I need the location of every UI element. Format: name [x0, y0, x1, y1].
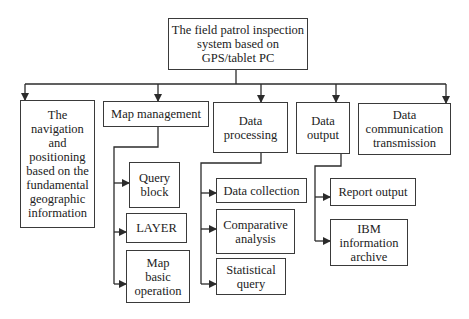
- module-map-management: Map management: [103, 101, 209, 127]
- node-label: Statistical query: [226, 263, 275, 291]
- module-label: Data output: [307, 114, 339, 142]
- node-label: Map basic operation: [134, 256, 181, 298]
- node-label: Comparative analysis: [223, 218, 288, 246]
- module-label: Map management: [111, 107, 201, 121]
- module-label: The navigation and positioning based on …: [26, 108, 88, 220]
- node-label: Report output: [338, 185, 407, 199]
- node-label: IBM information archive: [339, 222, 398, 264]
- node-query-block: Query block: [129, 162, 180, 208]
- module-data-processing: Data processing: [213, 102, 288, 153]
- module-label: Data processing: [224, 114, 277, 142]
- root-label: The field patrol inspection system based…: [172, 23, 304, 65]
- node-map-basic-operation: Map basic operation: [126, 250, 190, 303]
- node-label: Query block: [139, 171, 170, 199]
- node-label: LAYER: [136, 221, 177, 235]
- node-comparative-analysis: Comparative analysis: [216, 209, 295, 254]
- module-data-output: Data output: [296, 102, 350, 154]
- module-data-communication: Data communication transmission: [358, 103, 451, 155]
- node-statistical-query: Statistical query: [216, 258, 286, 295]
- module-label: Data communication transmission: [366, 108, 444, 150]
- module-navigation-positioning: The navigation and positioning based on …: [20, 100, 95, 228]
- node-layer: LAYER: [126, 213, 187, 243]
- root-node: The field patrol inspection system based…: [168, 18, 308, 70]
- node-report-output: Report output: [330, 178, 416, 206]
- node-label: Data collection: [223, 184, 299, 198]
- node-ibm-information-archive: IBM information archive: [330, 219, 408, 266]
- node-data-collection: Data collection: [216, 178, 307, 203]
